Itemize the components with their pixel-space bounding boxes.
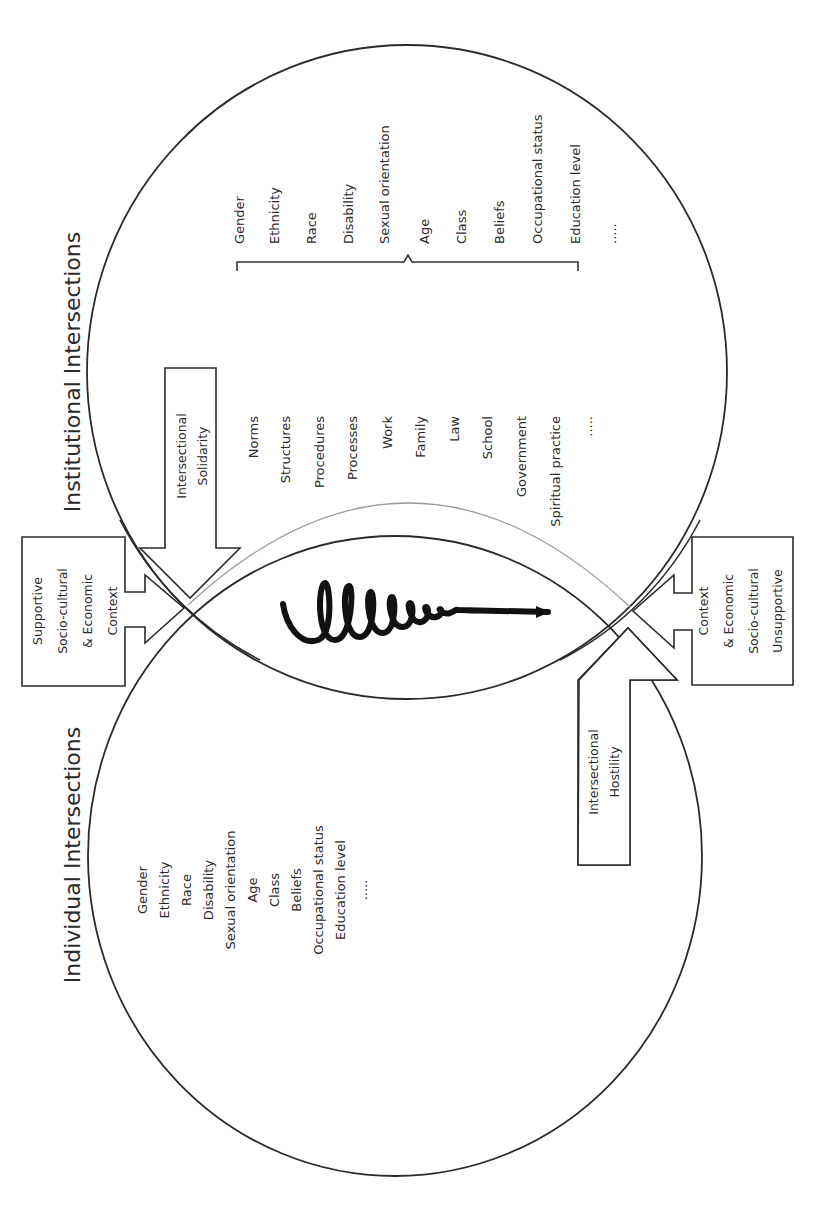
supportive-line1: Supportive — [30, 577, 45, 645]
unsupportive-line1: Context — [696, 586, 711, 635]
lens-upper-edge — [188, 503, 630, 607]
list-item: Spiritual practice — [548, 416, 563, 527]
list-item: Age — [245, 877, 260, 902]
down-arrow-icon — [140, 368, 240, 598]
hostility-label-line1: Intersectional — [586, 729, 601, 815]
list-item: Education level — [568, 144, 583, 244]
list-item: Occupational status — [530, 114, 545, 244]
list-item: Structures — [278, 416, 293, 483]
intersectionality-diagram: Institutional Intersections Individual I… — [0, 0, 819, 1206]
list-item: ..... — [580, 416, 595, 437]
list-item: Sexual orientation — [223, 831, 238, 950]
list-item: Work — [380, 416, 395, 449]
solidarity-label-line2: Solidarity — [195, 426, 210, 486]
list-item: Race — [304, 212, 319, 244]
list-item: Government — [514, 416, 529, 497]
hostility-label-line2: Hostility — [607, 746, 622, 798]
solidarity-label-line1: Intersectional — [174, 413, 189, 499]
spiral-arrow-icon — [283, 583, 550, 641]
list-item: Gender — [232, 195, 247, 244]
list-item: Family — [413, 416, 428, 458]
list-item: Occupational status — [311, 825, 326, 955]
list-item: Age — [417, 219, 432, 244]
individual-title: Individual Intersections — [60, 727, 85, 983]
list-item: Beliefs — [289, 868, 304, 912]
solidarity-arrow: Intersectional Solidarity — [140, 368, 240, 598]
list-item: Beliefs — [492, 200, 507, 244]
list-item: Education level — [333, 840, 348, 940]
unsupportive-line4: Unsupportive — [770, 569, 785, 653]
list-item: Class — [454, 210, 469, 244]
list-item: Ethnicity — [267, 187, 282, 244]
list-item: Ethnicity — [157, 861, 172, 918]
institutional-categories-list: Gender Ethnicity Race Disability Sexual … — [232, 114, 619, 244]
list-item: Disability — [341, 183, 356, 244]
supportive-line2: Socio-cultural — [55, 568, 70, 654]
unsupportive-line2: & Economic — [721, 574, 736, 648]
list-item: ..... — [604, 223, 619, 244]
list-item: Sexual orientation — [377, 125, 392, 244]
individual-categories-list: Gender Ethnicity Race Disability Sexual … — [135, 825, 370, 955]
list-item: Race — [179, 874, 194, 906]
list-item: Gender — [135, 865, 150, 914]
list-item: Procedures — [312, 416, 327, 488]
list-item: Law — [447, 416, 462, 442]
list-item: School — [480, 416, 495, 459]
unsupportive-line3: Socio-cultural — [746, 568, 761, 654]
institutional-title: Institutional Intersections — [60, 232, 85, 512]
list-item: Class — [267, 873, 282, 907]
list-item: Processes — [345, 416, 360, 480]
list-item: Disability — [201, 860, 216, 921]
supportive-line4: Context — [105, 586, 120, 635]
brace-bracket — [237, 255, 578, 271]
list-item: ..... — [355, 880, 370, 901]
list-item: Norms — [246, 416, 261, 458]
institutions-list: Norms Structures Procedures Processes Wo… — [246, 416, 595, 527]
hostility-arrow: Intersectional Hostility — [578, 628, 677, 865]
supportive-line3: & Economic — [80, 574, 95, 648]
